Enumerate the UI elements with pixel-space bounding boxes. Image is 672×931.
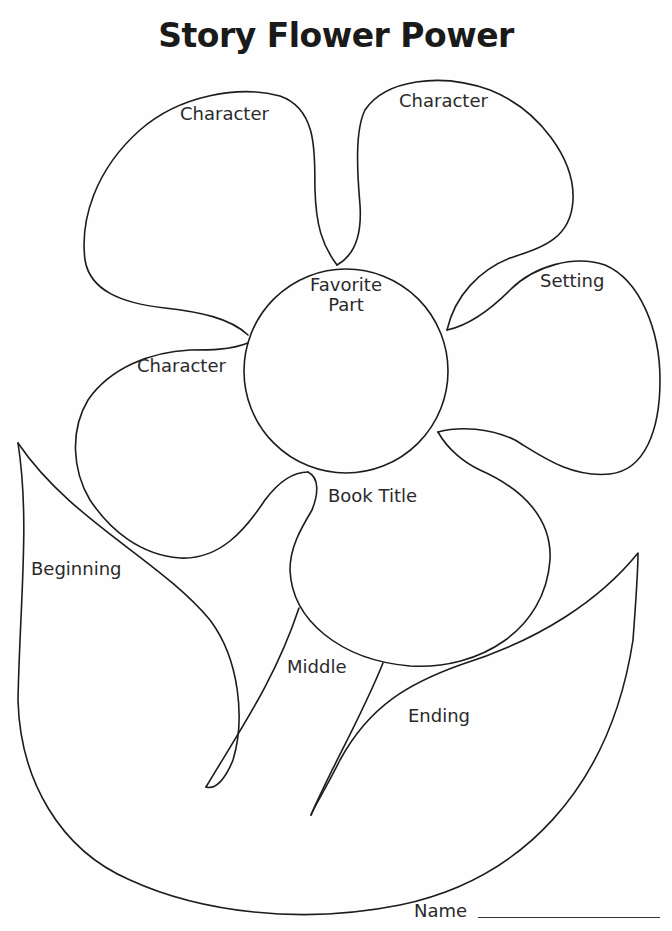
stem-right-line (311, 663, 383, 815)
flower-drawing (0, 0, 672, 931)
name-label: Name (414, 901, 467, 921)
center-label-line1: Favorite (296, 275, 396, 295)
leaf-right-label: Ending (408, 706, 470, 726)
name-blank-line[interactable] (478, 917, 660, 918)
leaf-left-label: Beginning (31, 559, 122, 579)
leaf-left-inner-edge (18, 443, 239, 788)
leaf-left-outline (18, 443, 638, 915)
stem-label: Middle (287, 657, 346, 677)
petal-left-label: Character (137, 356, 226, 376)
petal-bottom-label: Book Title (328, 486, 417, 506)
petal-right-outline (438, 261, 660, 474)
petal-top-left-label: Character (180, 104, 269, 124)
center-label-line2: Part (296, 295, 396, 315)
petal-right-label: Setting (540, 271, 604, 291)
center-label: Favorite Part (296, 275, 396, 315)
petal-bottom-outline (290, 432, 550, 666)
petal-top-right-label: Character (399, 91, 488, 111)
worksheet-page: Story Flower Power Favorite Part Charact… (0, 0, 672, 931)
